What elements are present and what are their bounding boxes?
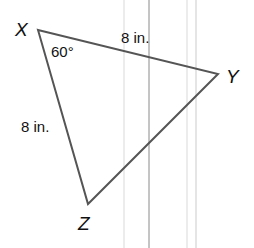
vertex-label-z: Z — [78, 214, 90, 233]
angle-measure-x: 60° — [51, 44, 74, 59]
vertex-label-x: X — [15, 20, 28, 39]
side-length-xy: 8 in. — [121, 30, 149, 45]
triangle-diagram: X Y Z 8 in. 8 in. 60° — [0, 0, 254, 248]
side-length-xz: 8 in. — [21, 119, 49, 134]
vertex-label-y: Y — [226, 67, 239, 86]
